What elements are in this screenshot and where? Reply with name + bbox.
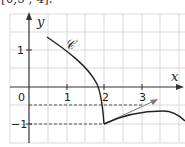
origin-label: 0 [18,91,25,104]
y-tick-label-1: 1 [17,44,24,57]
x-tick-label-1: 1 [64,91,71,104]
curve-right-branch [104,111,185,124]
x-axis-arrow-icon [176,84,184,90]
y-axis-arrow-icon [26,12,32,20]
y-tick-label-minus-1: −1 [11,118,27,131]
x-tick-label-3: 3 [139,91,146,104]
x-tick-label-2: 2 [102,91,109,104]
function-graph: y x 0 1 2 3 1 −1 𝒞 [0,0,185,147]
y-axis-label: y [36,14,45,29]
x-axis-label: x [171,69,179,84]
